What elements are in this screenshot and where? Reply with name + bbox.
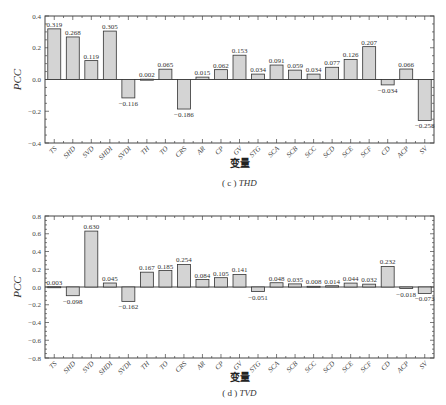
value-label: 0.048 xyxy=(269,275,285,283)
value-label: 0.153 xyxy=(232,47,248,55)
value-label: −0.018 xyxy=(396,291,416,299)
x-axis-title: 变量 xyxy=(230,371,250,383)
x-category-label: SCC xyxy=(303,145,318,160)
panel-caption: ( d ) TVD xyxy=(222,388,257,398)
x-category-label: TO xyxy=(158,145,170,157)
bar-scc xyxy=(307,74,320,79)
value-label: 0.045 xyxy=(102,275,118,283)
value-label: 0.002 xyxy=(139,71,155,79)
bar-cd xyxy=(381,266,394,287)
x-category-label: AR xyxy=(194,144,207,157)
bar-shdi xyxy=(103,283,116,287)
bar-acp xyxy=(400,287,413,289)
x-category-label: SHD xyxy=(62,145,77,160)
y-tick-label: −0.8 xyxy=(28,355,41,363)
bar-cp xyxy=(214,70,227,80)
y-axis-title: PCC xyxy=(11,68,23,91)
value-label: 0.141 xyxy=(232,266,248,274)
bar-to xyxy=(159,69,172,79)
x-category-label: GV xyxy=(232,144,245,157)
value-label: 0.059 xyxy=(287,62,303,70)
bar-gv xyxy=(233,55,246,79)
value-label: 0.034 xyxy=(306,66,322,74)
value-label: −0.162 xyxy=(119,303,139,311)
value-label: −0.034 xyxy=(378,87,398,95)
chart-canvas: 0.40.20.0−0.2−0.4PCC0.319TS0.268SHD0.119… xyxy=(0,0,446,405)
bar-crs xyxy=(177,80,190,110)
value-label: −0.073 xyxy=(415,295,435,303)
value-label: −0.186 xyxy=(174,111,194,119)
bar-cd xyxy=(381,80,394,85)
y-tick-label: 0.4 xyxy=(32,248,41,256)
bar-scb xyxy=(289,284,302,287)
y-tick-label: −0.6 xyxy=(28,337,41,345)
value-label: 0.305 xyxy=(102,23,118,31)
x-category-label: ACP xyxy=(395,359,411,375)
y-tick-label: 0.2 xyxy=(32,44,41,52)
x-category-label: SCA xyxy=(266,359,281,374)
x-category-label: SCA xyxy=(266,144,281,159)
bar-sca xyxy=(270,65,283,79)
x-category-label: SVDI xyxy=(116,359,133,376)
value-label: 0.062 xyxy=(213,62,229,70)
value-label: 0.035 xyxy=(287,276,303,284)
x-category-label: SVD xyxy=(81,360,96,375)
value-label: 0.044 xyxy=(343,275,359,283)
bar-scf xyxy=(363,47,376,80)
y-tick-label: 0.8 xyxy=(32,213,41,221)
x-category-label: CP xyxy=(213,359,225,371)
bar-sv xyxy=(418,287,431,293)
bar-sca xyxy=(270,283,283,287)
x-category-label: CRS xyxy=(174,144,189,159)
bar-gv xyxy=(233,274,246,287)
y-axis-title: PCC xyxy=(11,276,23,299)
x-axis-title: 变量 xyxy=(230,157,250,169)
bar-to xyxy=(159,271,172,287)
bar-ts xyxy=(48,29,61,80)
value-label: 0.084 xyxy=(195,272,211,280)
x-category-label: SV xyxy=(418,144,430,156)
bar-ts xyxy=(48,287,61,288)
y-tick-label: −0.2 xyxy=(28,108,41,116)
bar-th xyxy=(140,272,153,287)
bar-acp xyxy=(400,69,413,79)
value-label: 0.003 xyxy=(46,279,62,287)
y-tick-label: 0.0 xyxy=(32,76,41,84)
x-category-label: STG xyxy=(248,360,262,374)
value-label: 0.268 xyxy=(65,29,81,37)
value-label: −0.051 xyxy=(248,294,268,302)
x-category-label: STG xyxy=(248,145,262,159)
x-category-label: ACP xyxy=(395,144,411,160)
x-category-label: TS xyxy=(48,144,59,155)
chart-panel-d: 0.80.60.40.20.0−0.2−0.4−0.6−0.8PCC0.003T… xyxy=(11,213,435,399)
bar-cp xyxy=(214,278,227,287)
bar-scc xyxy=(307,286,320,287)
bar-sce xyxy=(344,283,357,287)
x-category-label: TO xyxy=(158,360,170,372)
x-category-label: SHDI xyxy=(97,359,114,376)
y-tick-label: −0.2 xyxy=(28,301,41,309)
value-label: 0.077 xyxy=(324,59,340,67)
x-category-label: AR xyxy=(194,359,207,372)
value-label: 0.319 xyxy=(46,21,62,29)
bar-sce xyxy=(344,59,357,79)
y-tick-label: 0.0 xyxy=(32,284,41,292)
bar-svd xyxy=(85,61,98,80)
x-category-label: CRS xyxy=(174,359,189,374)
x-category-label: SCD xyxy=(322,360,337,375)
x-category-label: CD xyxy=(380,360,393,373)
x-category-label: SVD xyxy=(81,145,96,160)
bar-scd xyxy=(326,286,339,287)
value-label: 0.119 xyxy=(84,53,100,61)
value-label: 0.015 xyxy=(195,69,211,77)
value-label: 0.126 xyxy=(343,51,359,59)
x-category-label: TH xyxy=(139,359,152,372)
bar-th xyxy=(140,79,153,80)
x-category-label: SCB xyxy=(285,144,300,159)
x-category-label: SVDI xyxy=(116,144,133,161)
chart-panel-c: 0.40.20.0−0.2−0.4PCC0.319TS0.268SHD0.119… xyxy=(11,13,435,189)
bar-stg xyxy=(252,287,265,292)
x-category-label: CD xyxy=(380,145,393,158)
bar-svdi xyxy=(122,80,135,98)
bar-scb xyxy=(289,70,302,79)
